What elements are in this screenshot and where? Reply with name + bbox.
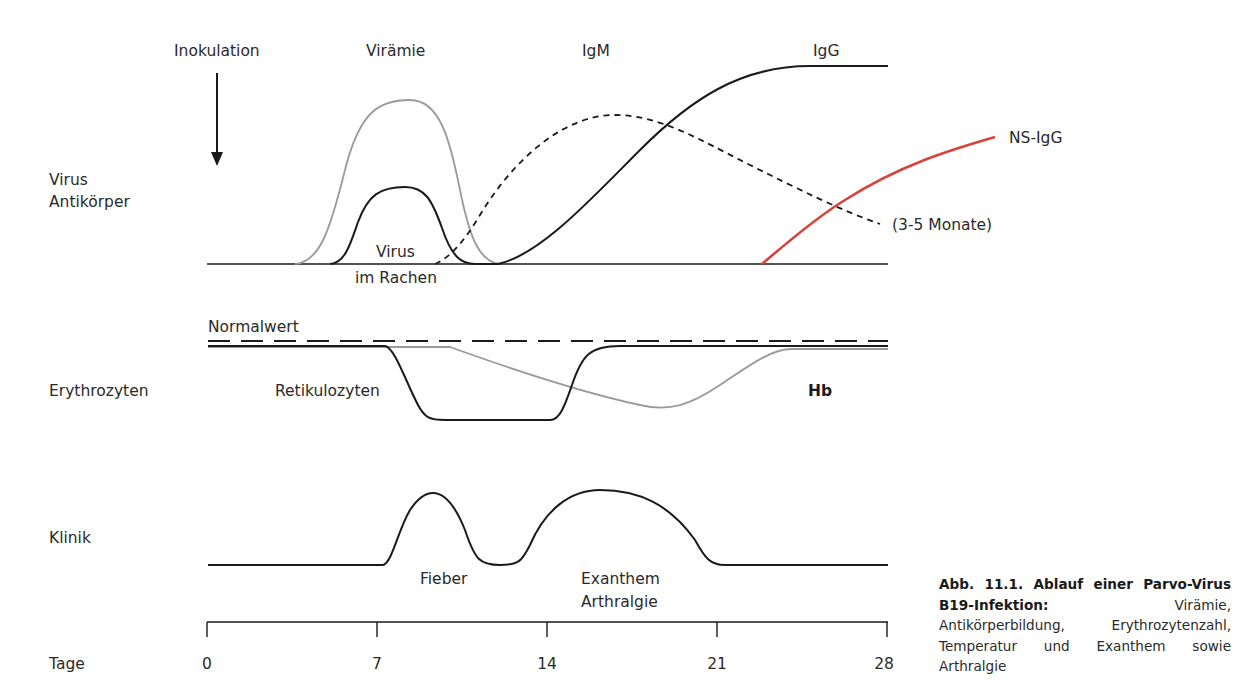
row-label-virus: Virus (49, 171, 88, 189)
label-normal-value: Normalwert (208, 318, 299, 336)
row-label-erythrocytes: Erythrozyten (49, 382, 149, 400)
label-viremia: Virämie (366, 42, 425, 60)
clinic-curve (208, 490, 888, 565)
row-label-antibodies: Antikörper (49, 193, 130, 211)
label-arthralgia: Arthralgie (581, 593, 658, 611)
viremia-curve (295, 100, 500, 264)
row-label-clinic: Klinik (49, 529, 91, 547)
tick-label-28: 28 (874, 655, 894, 673)
inoculation-arrow-icon (211, 73, 223, 166)
igg-curve (498, 66, 888, 264)
label-fever: Fieber (420, 570, 468, 588)
tick-label-7: 7 (372, 655, 382, 673)
label-igm-duration: (3-5 Monate) (892, 216, 992, 234)
throat-virus-curve (330, 187, 500, 264)
label-throat-virus-1: Virus (376, 243, 415, 261)
tick-label-14: 14 (537, 655, 557, 673)
day-axis (207, 622, 888, 637)
label-exanthem: Exanthem (581, 570, 660, 588)
tick-label-0: 0 (202, 655, 212, 673)
label-igm: IgM (582, 42, 610, 60)
tick-label-21: 21 (707, 655, 727, 673)
igm-curve (435, 115, 880, 264)
label-hemoglobin: Hb (808, 382, 832, 400)
label-inoculation: Inokulation (174, 42, 260, 60)
row-label-days: Tage (48, 655, 85, 673)
label-ns-igg: NS-IgG (1009, 129, 1062, 147)
label-throat-virus-2: im Rachen (355, 269, 437, 287)
ns-igg-curve (762, 137, 995, 264)
label-igg: IgG (813, 42, 839, 60)
label-reticulocytes: Retikulozyten (275, 382, 380, 400)
figure-caption: Abb. 11.1. Ablauf einer Parvo-Virus B19-… (939, 574, 1231, 677)
